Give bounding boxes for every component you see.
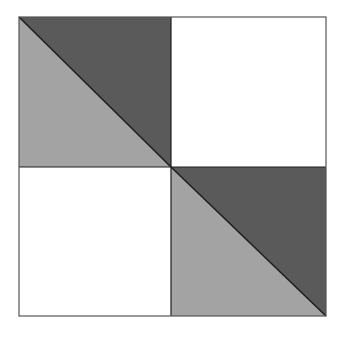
quadrant-bottom-left [19, 167, 171, 316]
quilt-block-diagram [0, 0, 350, 341]
diagram-shapes [19, 17, 326, 316]
quadrant-top-right [171, 17, 326, 167]
